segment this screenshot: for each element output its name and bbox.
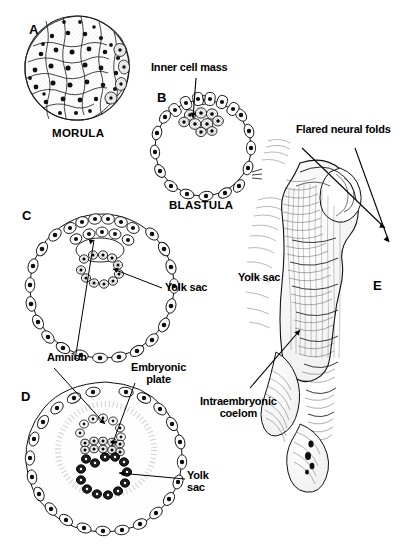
panel-letter-d: D [21, 390, 30, 404]
caption-morula: MORULA [52, 127, 104, 139]
panel-d-artwork [25, 368, 187, 536]
panel-c-artwork [25, 213, 179, 363]
label-yolk-sac-e: Yolk sac [238, 272, 280, 284]
embryology-figure: A MORULA B BLASTULA Inner cell mass C Yo… [0, 0, 405, 559]
label-intraembryonic-coelom: Intraembryonic coelom [200, 396, 277, 420]
label-amnion: Amnion [47, 352, 87, 364]
panel-e-artwork [246, 139, 389, 492]
panel-a-morula-artwork [25, 16, 131, 120]
caption-blastula: BLASTULA [169, 199, 233, 211]
label-yolk-sac-d: Yolk sac [187, 470, 209, 494]
panel-letter-b: B [157, 91, 166, 105]
panel-letter-c: C [22, 209, 31, 223]
label-inner-cell-mass: Inner cell mass [151, 62, 228, 74]
panel-letter-a: A [29, 23, 38, 37]
panel-letter-e: E [373, 279, 382, 293]
label-flared-neural-folds: Flared neural folds [296, 124, 391, 136]
label-embryonic-plate: Embryonic plate [131, 362, 186, 386]
label-yolk-sac-c: Yolk sac [165, 282, 207, 294]
